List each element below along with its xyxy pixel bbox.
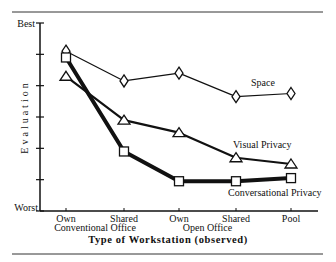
series-segment-visual-privacy xyxy=(236,158,291,164)
series-segment-conversational-privacy xyxy=(66,57,124,151)
series-segment-visual-privacy xyxy=(66,76,124,120)
data-point-space xyxy=(287,88,295,100)
data-point-space xyxy=(120,75,128,87)
evaluation-line-chart: Best Worst Evaluation OwnSharedOwnShared… xyxy=(0,0,336,262)
y-top-label: Best xyxy=(17,18,35,29)
data-point-conversational-privacy xyxy=(120,147,129,156)
series-label-conversational-privacy: Conversational Privacy xyxy=(228,187,322,198)
series-label-visual-privacy: Visual Privacy xyxy=(233,139,292,150)
series-segment-space xyxy=(179,73,236,97)
x-tick-label: Pool xyxy=(282,213,301,224)
series-segment-space xyxy=(236,94,291,97)
series-segment-visual-privacy xyxy=(124,120,179,133)
series-segment-conversational-privacy xyxy=(236,178,291,181)
y-bottom-label: Worst xyxy=(14,202,38,213)
data-point-space xyxy=(175,67,183,79)
y-axis-title: Evaluation xyxy=(19,80,30,153)
series-segment-conversational-privacy xyxy=(124,151,179,181)
series-segment-space xyxy=(124,73,179,81)
data-point-conversational-privacy xyxy=(62,53,71,62)
data-point-space xyxy=(232,91,240,103)
x-group-label: Conventional Office xyxy=(54,222,136,233)
series-segment-space xyxy=(66,51,124,81)
data-point-conversational-privacy xyxy=(232,177,241,186)
data-point-visual-privacy xyxy=(60,71,72,80)
data-point-conversational-privacy xyxy=(287,174,296,183)
x-group-label: Open Office xyxy=(183,222,233,233)
series-label-space: Space xyxy=(251,77,275,88)
series-segment-visual-privacy xyxy=(179,133,236,158)
data-point-conversational-privacy xyxy=(175,177,184,186)
x-axis-title: Type of Workstation (observed) xyxy=(88,234,248,246)
